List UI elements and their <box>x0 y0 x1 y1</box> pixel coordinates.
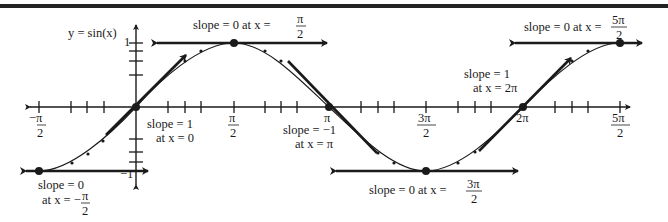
svg-text:2: 2 <box>37 126 43 140</box>
svg-text:slope = 1: slope = 1 <box>147 117 193 131</box>
y-tick-label-1: 1 <box>124 35 130 49</box>
x-tick-neg-pi-half: −π 2 <box>29 111 46 140</box>
svg-text:slope = −1: slope = −1 <box>283 123 336 137</box>
svg-text:2: 2 <box>423 126 429 140</box>
annotation-pi: slope = −1 at x = π <box>283 123 336 151</box>
svg-text:at x = −: at x = − <box>42 193 81 207</box>
x-tick-three-pi-half: 3π 2 <box>417 111 436 140</box>
svg-text:slope = 0: slope = 0 <box>38 178 84 192</box>
svg-text:2: 2 <box>617 126 623 140</box>
annotation-two-pi: slope = 1 at x = 2π <box>464 67 518 95</box>
svg-text:3π: 3π <box>467 177 480 191</box>
svg-text:π: π <box>82 189 89 203</box>
y-tick-label-neg1: −1 <box>120 167 133 181</box>
svg-text:2: 2 <box>230 126 236 140</box>
svg-text:−π: −π <box>29 111 43 125</box>
function-label: y = sin(x) <box>68 26 117 40</box>
svg-text:2: 2 <box>82 204 88 218</box>
svg-text:2: 2 <box>616 28 622 42</box>
annotation-three-pi-half: slope = 0 at x = 3π 2 <box>369 177 482 206</box>
svg-text:2: 2 <box>297 27 303 41</box>
svg-text:slope = 1: slope = 1 <box>464 67 510 81</box>
svg-text:5π: 5π <box>612 111 625 125</box>
annotation-five-pi-half: slope = 0 at x = 5π 2 <box>524 13 627 42</box>
svg-text:slope = 0 at x =: slope = 0 at x = <box>369 183 447 197</box>
x-tick-two-pi: 2π <box>516 111 529 125</box>
svg-text:2: 2 <box>471 192 477 206</box>
svg-text:slope = 0 at x =: slope = 0 at x = <box>524 20 602 34</box>
svg-text:3π: 3π <box>418 111 431 125</box>
svg-text:at x = 0: at x = 0 <box>156 131 194 145</box>
svg-text:π: π <box>297 12 304 26</box>
annotation-pi-half: slope = 0 at x = π 2 <box>193 12 306 41</box>
svg-text:at x = 2π: at x = 2π <box>473 81 518 95</box>
x-tick-pi-half: π 2 <box>228 111 239 140</box>
svg-text:slope = 0 at x =: slope = 0 at x = <box>193 18 271 32</box>
sine-slope-diagram: y = sin(x) 1 −1 −π 2 π 2 π 3π 2 2π 5π 2 <box>0 0 668 222</box>
svg-text:2π: 2π <box>516 111 529 125</box>
x-tick-five-pi-half: 5π 2 <box>611 111 630 140</box>
svg-text:at x = π: at x = π <box>295 137 334 151</box>
svg-text:5π: 5π <box>612 13 625 27</box>
svg-text:π: π <box>229 111 236 125</box>
annotation-neg-pi-half: slope = 0 at x = − π 2 <box>38 178 90 218</box>
annotation-zero: slope = 1 at x = 0 <box>147 117 194 145</box>
